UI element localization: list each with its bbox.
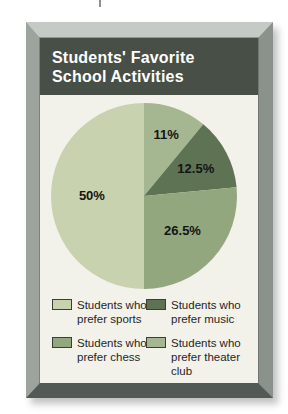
- legend-swatch-sports: [52, 299, 72, 310]
- legend-swatch-chess: [52, 337, 72, 348]
- scan-artifact-mark: [99, 0, 101, 7]
- pie-slice-label-3: 50%: [79, 188, 105, 203]
- legend-label-chess: Students who prefer chess: [77, 336, 157, 364]
- legend-label-sports: Students who prefer sports: [77, 298, 157, 326]
- pie-chart: 11%12.5%26.5%50%: [40, 38, 258, 383]
- legend-item-theater-club: Students who prefer theater club: [146, 336, 251, 378]
- legend-label-music: Students who prefer music: [171, 298, 251, 326]
- legend-swatch-theater-club: [146, 337, 166, 348]
- poster-panel: Students' Favorite School Activities 11%…: [40, 38, 258, 383]
- framed-poster: Students' Favorite School Activities 11%…: [26, 22, 273, 398]
- pie-slice-label-2: 26.5%: [164, 223, 201, 238]
- legend-swatch-music: [146, 299, 166, 310]
- legend-item-music: Students who prefer music: [146, 298, 251, 326]
- legend-item-chess: Students who prefer chess: [52, 336, 157, 364]
- legend-label-theater-club: Students who prefer theater club: [171, 336, 251, 378]
- legend-item-sports: Students who prefer sports: [52, 298, 157, 326]
- pie-slice-label-1: 12.5%: [177, 161, 214, 176]
- pie-slice-label-0: 11%: [153, 127, 179, 142]
